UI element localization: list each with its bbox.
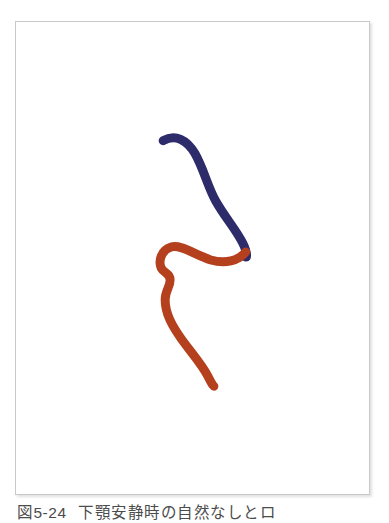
- page-root: 図5-24 下顎安静時の自然なしとロ: [0, 0, 389, 523]
- figure-drawing-canvas: [16, 22, 369, 494]
- figure-caption-text: 下顎安静時の自然なしとロ: [78, 504, 276, 521]
- figure-panel: [15, 21, 370, 495]
- figure-caption: 図5-24 下顎安静時の自然なしとロ: [17, 503, 387, 523]
- canvas-background: [16, 22, 369, 493]
- figure-caption-number: 図5-24: [17, 504, 67, 521]
